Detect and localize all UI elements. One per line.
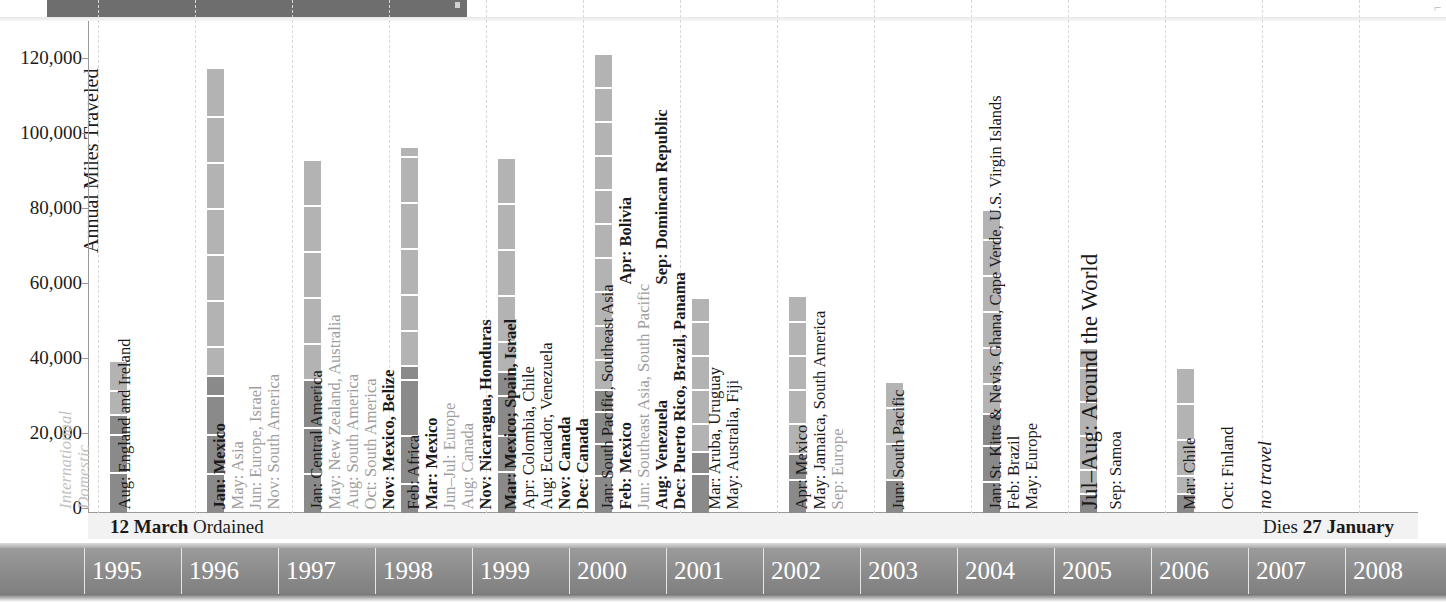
event-ordained-date: 12 March (110, 516, 188, 537)
year-label-2008[interactable]: 2008 (1353, 557, 1403, 585)
y-tick-120000: 120,000 (20, 47, 82, 69)
trip-label: Nov: South America (266, 373, 283, 509)
trip-label: Oct: South America (363, 378, 380, 509)
trip-label: Nov: Nicaragua, Honduras (478, 319, 495, 509)
gridline-2004 (971, 0, 972, 513)
trip-label: Jun–Jul: Europe (442, 402, 459, 509)
gridline-2003 (874, 0, 875, 513)
year-label-1999[interactable]: 1999 (480, 557, 530, 585)
y-tick-100000: 100,000 (20, 122, 82, 144)
year-label-2000[interactable]: 2000 (577, 557, 627, 585)
trip-label: Feb: Mexico (618, 421, 635, 509)
gridline-2002 (777, 0, 778, 513)
trip-label: Mar: Mexico; Spain, Israel (503, 318, 520, 509)
trip-label: Nov: Canada (557, 416, 574, 509)
year-label-2005[interactable]: 2005 (1062, 557, 1112, 585)
event-ordained: 12 March Ordained (110, 516, 264, 538)
year-label-1995[interactable]: 1995 (92, 557, 142, 585)
year-label-1996[interactable]: 1996 (189, 557, 239, 585)
top-right-mark: ⌐ (1433, 0, 1442, 16)
trip-label: Aug: Ecuador, Venezuela (539, 342, 556, 509)
trip-label: Aug: Venezuela (654, 399, 671, 509)
trip-label: Jun: South Pacific (891, 389, 908, 509)
trip-label: Dec: Canada (575, 418, 592, 509)
gridline-2005 (1068, 0, 1069, 513)
legend-international: Internationaal (57, 411, 74, 509)
trip-label: May: New Zealand, Australia (327, 314, 344, 509)
event-band: 12 March Ordained Dies 27 January (88, 513, 1418, 539)
trip-label: May: Jamaica, South America (812, 310, 829, 509)
trip-label: May: Asia (230, 441, 247, 509)
year-label-2007[interactable]: 2007 (1256, 557, 1306, 585)
trip-label: May: Europe (1024, 422, 1041, 509)
gridline-2006 (1165, 0, 1166, 513)
trip-label: Aug: South America (345, 373, 362, 509)
trip-label: Nov: Mexico, Belize (381, 369, 398, 509)
year-label-2001[interactable]: 2001 (674, 557, 724, 585)
y-tick-60000: 60,000 (30, 272, 82, 294)
trip-label: Jun: Southeast Asia, South Pacific (636, 283, 653, 509)
trip-label: Sep: Europe (830, 428, 847, 509)
gridline-2008 (1359, 0, 1360, 513)
year-label-2002[interactable]: 2002 (771, 557, 821, 585)
trip-label: Apr: Colombia, Chile (521, 366, 538, 509)
chart-plot-area: Annual Miles Traveled 120,000 100,000 80… (88, 21, 1418, 513)
y-tick-40000: 40,000 (30, 347, 82, 369)
trip-label-no-travel: no travel (1255, 441, 1274, 509)
year-label-2004[interactable]: 2004 (965, 557, 1015, 585)
trip-label: Sep: Domincan Republic (654, 109, 671, 284)
trip-label: Mar: Mexico (424, 417, 441, 509)
year-label-1998[interactable]: 1998 (383, 557, 433, 585)
trip-label: Jan: St. Kitts & Nevis, Ghana, Cape Verd… (988, 95, 1005, 509)
gridline-1996 (195, 0, 196, 513)
trip-label: Jun: Europe, Israel (248, 385, 265, 509)
trip-label: Aug: Canada (460, 422, 477, 509)
gridline-2007 (1262, 0, 1263, 513)
y-axis-title: Annual Miles Traveled (80, 69, 103, 253)
trip-label: Jan: South Pacific, Southeast Asia (600, 284, 617, 509)
event-ordained-label: Ordained (188, 516, 263, 537)
year-band-shadow (0, 594, 1446, 602)
legend-domestic: Domestic (75, 445, 92, 509)
gridline-1997 (292, 0, 293, 513)
trip-label: Mar: Chile (1182, 437, 1199, 509)
trip-label: Jul–Aug: Around the World (1078, 254, 1101, 509)
trip-label: Sep: Samoa (1108, 431, 1125, 509)
trip-label: Mar: Aruba, Uruguay (707, 366, 724, 509)
trip-label: Apr: Mexico (794, 424, 811, 509)
year-label-2006[interactable]: 2006 (1159, 557, 1209, 585)
trip-label: Feb: Brazil (1006, 435, 1023, 509)
year-label-2003[interactable]: 2003 (868, 557, 918, 585)
top-banner-tick (455, 2, 460, 8)
trip-label: Aug: England and Ireland (117, 338, 134, 509)
event-dies-date: 27 January (1303, 516, 1394, 537)
gridline-1995 (98, 0, 99, 513)
event-dies: Dies 27 January (1263, 516, 1394, 538)
y-tick-80000: 80,000 (30, 197, 82, 219)
trip-label: Apr: Bolivia (618, 196, 635, 284)
y-axis-line (88, 21, 89, 513)
year-axis-band: 1995 1996 1997 1998 1999 2000 2001 2002 … (0, 548, 1446, 594)
event-dies-label: Dies (1263, 516, 1303, 537)
trip-label: Oct: Finland (1220, 426, 1237, 509)
trip-label: Jan: Mexico (212, 422, 229, 509)
top-cropped-banner (47, 0, 467, 17)
trip-label: May: Australia, Fiji (725, 379, 742, 509)
year-label-1997[interactable]: 1997 (286, 557, 336, 585)
trip-label: Dec: Puerto Rico, Brazil, Panama (672, 272, 689, 509)
trip-label: Jan: Central America (309, 370, 326, 509)
trip-label: Feb: Africa (406, 434, 423, 509)
